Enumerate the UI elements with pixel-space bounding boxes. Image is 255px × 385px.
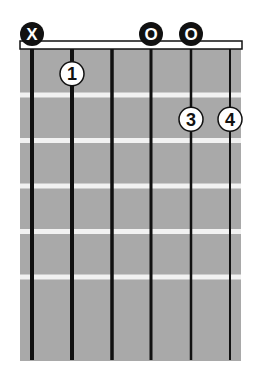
finger-number: 1 — [67, 64, 77, 84]
fret-line-5 — [20, 275, 241, 280]
open-string-marker: O — [139, 22, 163, 46]
fret-line-3 — [20, 184, 241, 189]
string-marker-label: O — [184, 25, 197, 44]
finger-number: 3 — [186, 110, 196, 130]
fret-line-4 — [20, 229, 241, 234]
chord-diagram: XOO 134 — [0, 0, 255, 385]
open-string-marker: O — [179, 22, 203, 46]
nut — [20, 41, 242, 49]
finger-marker: 4 — [218, 107, 242, 131]
fret-line-1 — [20, 93, 241, 98]
finger-number: 4 — [225, 110, 235, 130]
fret-line-2 — [20, 138, 241, 143]
finger-marker: 3 — [179, 107, 203, 131]
muted-string-marker: X — [20, 22, 44, 46]
string-marker-label: O — [144, 25, 157, 44]
finger-marker: 1 — [60, 62, 84, 86]
string-marker-label: X — [26, 25, 38, 44]
